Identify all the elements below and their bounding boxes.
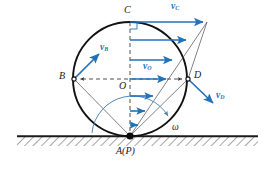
figure-canvas: C vC B vB O vO D vD ω A(P) <box>0 0 275 170</box>
marker-point-D <box>186 77 190 81</box>
label-point-O: O <box>119 81 126 91</box>
label-A-paren: (P) <box>122 145 135 156</box>
ground-hatching <box>17 137 258 146</box>
label-vector-vD: vD <box>216 91 224 101</box>
label-vector-vO: vO <box>143 62 151 72</box>
label-vector-vC: vC <box>171 2 179 12</box>
label-angular-velocity-omega: ω <box>172 123 179 133</box>
label-point-D: D <box>194 70 201 80</box>
label-vector-vB: vB <box>100 43 108 53</box>
label-point-C: C <box>124 5 131 15</box>
label-point-B: B <box>59 71 65 81</box>
velocity-profile-arrows <box>130 22 203 125</box>
diagram-svg <box>0 0 275 170</box>
marker-point-A <box>126 132 133 139</box>
marker-point-B <box>72 77 76 81</box>
vector-vD <box>188 79 213 103</box>
label-point-A-contact: A(P) <box>116 146 135 156</box>
